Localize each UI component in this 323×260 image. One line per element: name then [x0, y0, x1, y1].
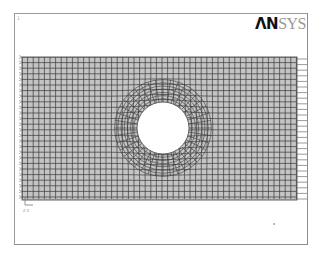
fe-mesh-plot[interactable]: Z X: [0, 0, 323, 260]
constraint-markers: [19, 56, 22, 199]
svg-text:Z X: Z X: [23, 208, 30, 213]
stray-marker: [273, 223, 275, 225]
hole-edge: [137, 102, 189, 154]
load-arrows: [297, 59, 307, 199]
